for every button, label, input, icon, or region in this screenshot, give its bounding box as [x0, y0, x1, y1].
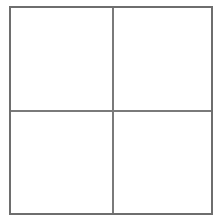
horizontal-divider — [11, 110, 211, 112]
grid-2x2 — [9, 6, 213, 215]
grid-cell-top-left — [11, 8, 112, 110]
grid-cell-top-right — [113, 8, 211, 110]
grid-cell-bottom-right — [113, 111, 211, 213]
grid-cell-bottom-left — [11, 111, 112, 213]
